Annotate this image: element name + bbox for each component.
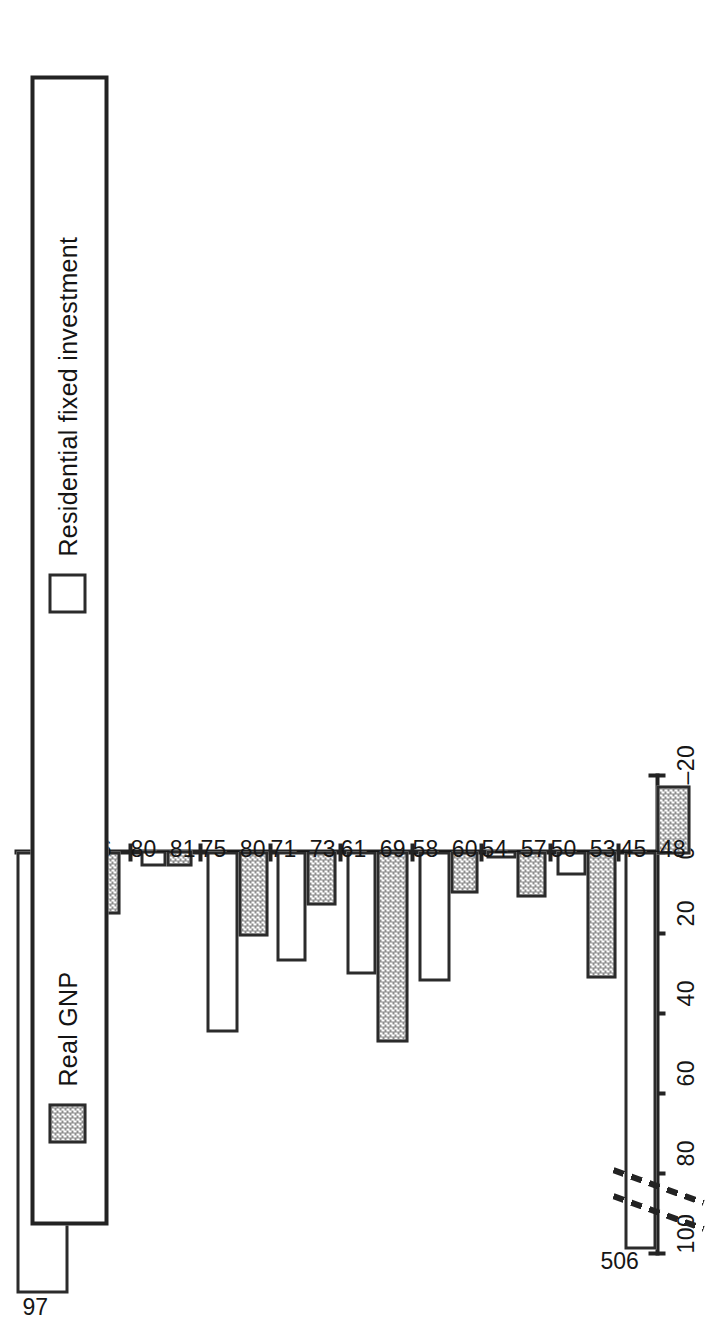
legend: Real GNP Residential fixed investment xyxy=(30,75,108,1225)
legend-label-real-gnp: Real GNP xyxy=(53,971,82,1086)
legend-label-residential: Residential fixed investment xyxy=(53,236,82,556)
legend-swatch-residential xyxy=(48,573,86,613)
bar-residential-61-69 xyxy=(346,851,376,974)
bar-residential-45-48 xyxy=(624,851,656,1249)
axis-tick-label-80: 80 xyxy=(672,1139,699,1166)
legend-item-residential: Residential fixed investment xyxy=(48,236,86,613)
bar-gnp-50-53 xyxy=(586,851,616,978)
axis-tick-label-20: 20 xyxy=(672,899,699,926)
category-label-61-69: 61–69 xyxy=(340,835,405,862)
bar-gnp-61-69 xyxy=(376,851,408,1042)
category-label-50-53: 50–53 xyxy=(550,835,615,862)
legend-swatch-real-gnp xyxy=(48,1103,86,1143)
bar-residential-71-73 xyxy=(276,851,306,961)
category-label-75-80: 75–80 xyxy=(200,835,265,862)
axis-tick-neg20 xyxy=(648,773,665,777)
axis-tick-100 xyxy=(648,1251,665,1255)
axis-tick-label-40: 40 xyxy=(672,979,699,1006)
bar-residential-58-60 xyxy=(418,851,450,981)
category-label-54-57: 54–57 xyxy=(481,835,546,862)
category-label-80-81: 80–81 xyxy=(130,835,195,862)
value-label-506: 506 xyxy=(600,1247,638,1274)
category-label-45-48: 45–48 xyxy=(620,835,685,862)
value-label-97: 97 xyxy=(22,1293,48,1319)
bar-gnp-75-80 xyxy=(238,851,268,936)
category-label-71-73: 71–73 xyxy=(270,835,335,862)
axis-tick-label-neg20: –20 xyxy=(672,744,699,784)
axis-tick-label-60: 60 xyxy=(672,1059,699,1086)
category-separator-8 xyxy=(616,843,620,861)
bar-residential-75-80 xyxy=(206,851,238,1032)
category-label-58-60: 58–60 xyxy=(412,835,477,862)
legend-item-real-gnp: Real GNP xyxy=(48,971,86,1143)
